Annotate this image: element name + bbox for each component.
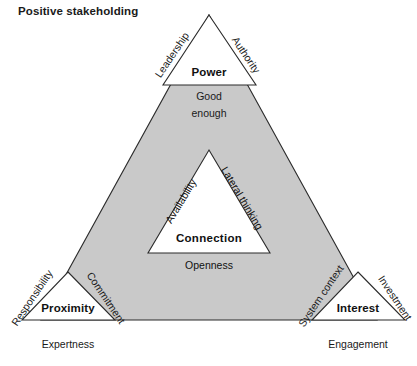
interest-base-label: Engagement xyxy=(328,338,388,350)
page-title: Positive stakeholding xyxy=(18,5,138,17)
diagram-canvas: Positive stakeholding Power Leadership A… xyxy=(0,0,417,366)
proximity-label: Proximity xyxy=(41,302,95,314)
interest-label: Interest xyxy=(337,302,379,314)
proximity-base-label: Expertness xyxy=(42,338,95,350)
positive-stakeholding-diagram: Positive stakeholding Power Leadership A… xyxy=(0,0,417,366)
connection-label: Connection xyxy=(176,232,242,244)
power-base-label-line1: Good xyxy=(196,90,222,102)
connection-edge-bottom-label: Openness xyxy=(185,259,233,271)
power-base-label-line2: enough xyxy=(191,107,226,119)
power-label: Power xyxy=(191,66,226,78)
